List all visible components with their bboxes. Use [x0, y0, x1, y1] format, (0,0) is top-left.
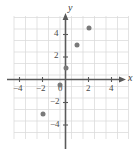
y-tick-label-neg2: −2: [50, 97, 60, 106]
y-axis-label: y: [68, 3, 72, 13]
x-axis-arrow: [119, 77, 126, 83]
y-tick-label-2: 2: [54, 51, 59, 60]
coordinate-plane-figure: −4 −2 0 2 4 4 2 −2 −4 x y: [0, 0, 139, 150]
grid-and-axes: [0, 0, 139, 150]
x-axis-label: x: [128, 73, 132, 83]
data-point: [57, 83, 62, 88]
data-point: [75, 43, 80, 48]
x-tick-label-2: 2: [86, 84, 91, 93]
x-tick-label-neg2: −2: [36, 84, 46, 93]
x-tick-label-neg4: −4: [13, 84, 23, 93]
y-tick-label-neg4: −4: [50, 120, 60, 129]
y-axis-arrow: [63, 13, 69, 20]
x-tick-label-4: 4: [109, 84, 114, 93]
data-point: [63, 66, 68, 71]
y-tick-label-4: 4: [54, 29, 59, 38]
data-point: [86, 25, 91, 30]
data-point: [40, 112, 45, 117]
